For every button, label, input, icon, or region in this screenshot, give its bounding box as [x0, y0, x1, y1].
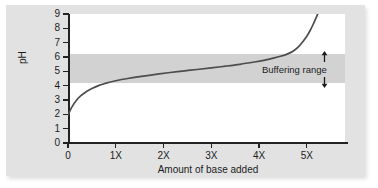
- x-axis-tick: [163, 143, 164, 149]
- y-axis-title: pH: [17, 51, 28, 64]
- y-axis-tick-label: 0: [46, 138, 60, 148]
- arrow-down-icon: [320, 77, 329, 88]
- x-axis-tick-label: 2X: [149, 150, 179, 161]
- x-axis-tick: [67, 143, 68, 149]
- y-axis-tick-label: 5: [46, 66, 60, 76]
- x-axis-tick-label: 5X: [292, 150, 322, 161]
- arrow-up-icon: [320, 51, 329, 62]
- buffering-range-label: Buffering range: [262, 64, 334, 75]
- x-axis-tick: [258, 143, 259, 149]
- y-axis-tick-label: 3: [46, 95, 60, 105]
- y-axis-tick-label: 7: [46, 38, 60, 48]
- x-axis-tick: [211, 143, 212, 149]
- x-axis-tick-label: 3X: [196, 150, 226, 161]
- y-axis-tick-label: 6: [46, 52, 60, 62]
- y-axis-tick-label: 1: [46, 124, 60, 134]
- y-axis-tick-label: 4: [46, 81, 60, 91]
- figure-root: 0123456789 01X2X3X4X5X pH Amount of base…: [0, 0, 378, 188]
- x-axis-tick: [115, 143, 116, 149]
- x-axis-tick-label: 1X: [101, 150, 131, 161]
- x-axis-tick-label: 0: [53, 150, 83, 161]
- y-axis-tick-label: 8: [46, 23, 60, 33]
- x-axis-title: Amount of base added: [68, 164, 348, 175]
- x-axis-tick-label: 4X: [244, 150, 274, 161]
- y-axis-tick-label: 2: [46, 109, 60, 119]
- y-axis-tick-label: 9: [46, 9, 60, 19]
- x-axis-tick: [306, 143, 307, 149]
- buffering-range-annotation: Buffering range: [262, 51, 350, 89]
